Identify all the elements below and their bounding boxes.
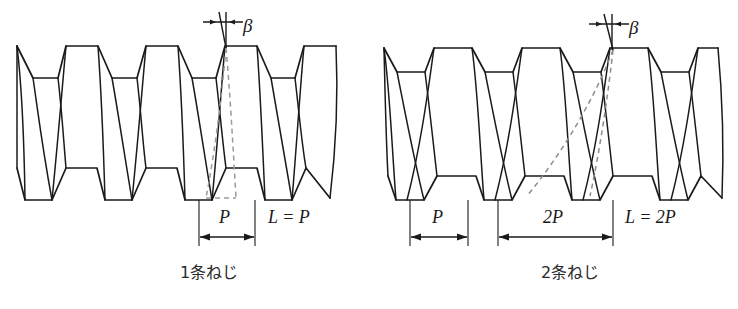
- right-pitch-arrow-right: [457, 234, 467, 241]
- right-caption: 2条ねじ: [541, 265, 599, 281]
- right-flank-1d: [407, 48, 434, 200]
- right-lead-label: L = 2P: [625, 208, 676, 226]
- left-flank-2b: [112, 78, 132, 200]
- left-flank-3b: [192, 78, 212, 200]
- left-pitch-label: P: [219, 208, 230, 226]
- left-lead-label: L = P: [268, 208, 310, 226]
- left-hidden-helix-back: [226, 48, 236, 198]
- right-angle-arrow-right: [615, 21, 621, 26]
- left-angle-helix-ref: [219, 12, 226, 48]
- right-flank-3d: [583, 48, 610, 200]
- right-pitch-arrow-left: [411, 234, 421, 241]
- right-flank-4c: [689, 72, 701, 176]
- left-pitch-arrow-right: [244, 234, 254, 241]
- right-flank-4a: [648, 48, 660, 200]
- right-pitch-label: P: [432, 208, 443, 226]
- left-flank-4b: [271, 78, 292, 200]
- right-lead-arrow-left: [499, 234, 509, 241]
- right-lead-span-label: 2P: [543, 208, 563, 226]
- left-flank-4a: [257, 46, 265, 200]
- thread-diagram-svg: [0, 0, 738, 309]
- right-flank-2c: [513, 72, 525, 176]
- left-angle-arrow-left: [210, 19, 216, 24]
- left-angle-arrow-right: [229, 19, 235, 24]
- right-angle-arrow-left: [596, 21, 602, 26]
- left-beta-label: β: [243, 16, 252, 35]
- right-flank-2a: [472, 48, 484, 200]
- right-beta-label: β: [629, 18, 638, 37]
- left-flank-5a: [330, 46, 337, 198]
- figure-root: β P L = P 1条ねじ β P 2P L = 2P 2条ねじ: [0, 0, 738, 309]
- right-flank-1c: [425, 72, 437, 176]
- left-thread-root-outline: [17, 168, 330, 200]
- right-flank-3a: [560, 48, 572, 200]
- left-caption: 1条ねじ: [180, 265, 238, 281]
- right-flank-2d: [495, 48, 522, 200]
- right-lead-arrow-right: [602, 234, 612, 241]
- left-flank-inner-1: [52, 46, 66, 200]
- left-flank-1a: [17, 46, 25, 200]
- left-flank-1b: [33, 78, 52, 200]
- right-flank-4d: [671, 48, 698, 200]
- left-pitch-arrow-left: [200, 234, 210, 241]
- right-flank-5a: [718, 48, 723, 198]
